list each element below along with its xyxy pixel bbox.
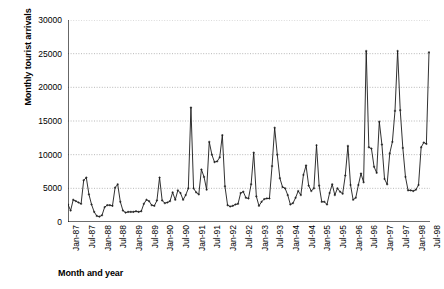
- x-tick-label: Jan-88: [103, 225, 113, 251]
- gridlines: [68, 20, 430, 222]
- y-tick-label: 30000: [38, 15, 62, 25]
- y-axis-tick-labels: 050001000015000200002500030000: [0, 20, 68, 222]
- data-markers: [68, 50, 430, 218]
- plot-area: [68, 20, 430, 222]
- x-tick-label: Jul-88: [118, 225, 128, 248]
- data-line-monthly-tourist-arrivals: [68, 51, 429, 217]
- x-tick-label: Jul-98: [432, 225, 442, 248]
- y-tick-label: 0: [57, 217, 62, 227]
- chart-container: Monthly tourist arrivals 050001000015000…: [0, 0, 444, 289]
- x-tick-label: Jan-92: [228, 225, 238, 251]
- x-tick-label: Jul-97: [401, 225, 411, 248]
- x-tick-label: Jul-95: [338, 225, 348, 248]
- y-tick-label: 15000: [38, 116, 62, 126]
- y-tick-label: 20000: [38, 82, 62, 92]
- x-tick-label: Jan-95: [322, 225, 332, 251]
- y-tick-label: 25000: [38, 49, 62, 59]
- x-tick-label: Jul-93: [275, 225, 285, 248]
- x-tick-label: Jan-96: [354, 225, 364, 251]
- x-tick-label: Jul-90: [181, 225, 191, 248]
- x-tick-label: Jul-92: [244, 225, 254, 248]
- x-tick-label: Jul-96: [369, 225, 379, 248]
- y-tick-label: 10000: [38, 150, 62, 160]
- x-tick-label: Jul-94: [307, 225, 317, 248]
- x-tick-label: Jul-91: [212, 225, 222, 248]
- x-tick-label: Jan-97: [385, 225, 395, 251]
- y-tick-label: 5000: [43, 183, 62, 193]
- x-axis-tick-labels: Jan-87Jul-87Jan-88Jul-88Jan-89Jul-89Jan-…: [68, 222, 430, 268]
- x-tick-label: Jan-98: [417, 225, 427, 251]
- x-axis-title: Month and year: [58, 268, 123, 278]
- x-tick-label: Jan-93: [260, 225, 270, 251]
- x-tick-label: Jul-89: [150, 225, 160, 248]
- x-tick-label: Jan-94: [291, 225, 301, 251]
- series-plot: [68, 20, 430, 222]
- x-tick-label: Jan-90: [165, 225, 175, 251]
- x-tick-label: Jan-91: [197, 225, 207, 251]
- x-tick-label: Jul-87: [87, 225, 97, 248]
- x-tick-label: Jan-89: [134, 225, 144, 251]
- x-tick-label: Jan-87: [71, 225, 81, 251]
